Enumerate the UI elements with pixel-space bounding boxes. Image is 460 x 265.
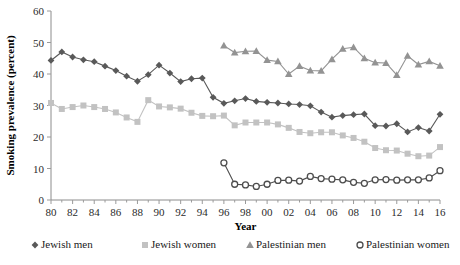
data-point	[188, 75, 195, 82]
data-point	[91, 58, 98, 65]
x-tick-label: 98	[240, 206, 252, 218]
x-tick-label: 86	[110, 206, 122, 218]
data-point	[113, 109, 119, 115]
data-point	[318, 176, 324, 182]
data-point	[123, 73, 130, 80]
data-point	[80, 103, 86, 109]
x-tick-label: 00	[262, 206, 274, 218]
y-tick-label: 20	[33, 131, 45, 143]
data-point	[243, 182, 249, 188]
data-point	[253, 98, 260, 105]
chart-canvas: 0102030405060808284868890929496980002040…	[0, 0, 460, 265]
x-tick-label: 80	[46, 206, 58, 218]
y-tick-label: 50	[33, 37, 45, 49]
data-point	[350, 111, 357, 118]
series-palestinian-men	[220, 42, 444, 78]
data-point	[102, 63, 109, 70]
data-point	[70, 104, 76, 110]
data-point	[361, 139, 367, 145]
data-point	[80, 56, 87, 63]
data-point	[220, 100, 227, 107]
series-jewish-women	[48, 97, 443, 159]
x-tick-label: 08	[348, 206, 360, 218]
data-point	[351, 179, 357, 185]
data-point	[275, 100, 282, 107]
data-point	[210, 113, 216, 119]
data-point	[253, 183, 259, 189]
x-tick-label: 84	[89, 206, 101, 218]
data-point	[436, 62, 444, 69]
y-tick-label: 40	[33, 68, 45, 80]
data-point	[221, 160, 227, 166]
data-point	[297, 178, 303, 184]
data-point	[231, 97, 238, 104]
data-point	[242, 95, 249, 102]
data-point	[178, 106, 184, 112]
legend-label: Jewish men	[41, 238, 93, 250]
data-point	[112, 67, 119, 74]
data-point	[437, 144, 443, 150]
legend-label: Palestinian men	[256, 238, 326, 250]
data-point	[275, 121, 281, 127]
data-point	[102, 106, 108, 112]
data-point	[285, 101, 292, 108]
data-point	[350, 43, 358, 50]
data-point	[220, 42, 228, 49]
data-point	[296, 62, 304, 69]
data-point	[221, 113, 227, 119]
data-point	[383, 147, 389, 153]
data-point	[253, 120, 259, 126]
x-tick-label: 06	[326, 206, 338, 218]
data-point	[59, 106, 65, 112]
data-point	[297, 129, 303, 135]
data-point	[372, 177, 378, 183]
data-point	[286, 177, 292, 183]
data-point	[156, 103, 162, 109]
data-point	[405, 177, 411, 183]
data-point	[91, 104, 97, 110]
data-point	[351, 135, 357, 141]
data-point	[339, 112, 346, 119]
legend-label: Palestinian women	[366, 238, 450, 250]
x-tick-label: 12	[391, 206, 402, 218]
x-tick-label: 82	[67, 206, 78, 218]
data-point	[296, 101, 303, 108]
data-point	[383, 123, 390, 130]
data-point	[415, 177, 421, 183]
data-point	[199, 113, 205, 119]
data-point	[340, 132, 346, 138]
data-point	[318, 129, 324, 135]
legend-item-palestinian-women[interactable]: Palestinian women	[357, 238, 450, 250]
y-tick-label: 30	[33, 100, 45, 112]
data-point	[188, 110, 194, 116]
y-tick-label: 0	[39, 194, 45, 206]
legend-marker-square	[142, 242, 148, 248]
data-point	[437, 168, 443, 174]
series-palestinian-women	[221, 160, 443, 190]
x-tick-label: 10	[370, 206, 382, 218]
x-tick-label: 04	[305, 206, 317, 218]
y-tick-label: 60	[33, 5, 45, 17]
y-axis-title: Smoking prevalence (percent)	[4, 35, 17, 175]
x-tick-label: 02	[283, 206, 294, 218]
data-point	[394, 177, 400, 183]
data-point	[48, 100, 54, 106]
legend-item-palestinian-men[interactable]: Palestinian men	[246, 238, 326, 250]
data-point	[405, 151, 411, 157]
data-point	[437, 111, 444, 118]
data-point	[232, 181, 238, 187]
data-point	[134, 119, 140, 125]
data-point	[307, 102, 314, 109]
legend-item-jewish-men[interactable]: Jewish men	[32, 238, 94, 250]
data-point	[307, 173, 313, 179]
data-point	[264, 120, 270, 126]
data-point	[199, 75, 206, 82]
data-point	[372, 145, 378, 151]
data-point	[275, 177, 281, 183]
legend-marker-circle	[357, 242, 363, 248]
x-axis-title: Year	[235, 220, 257, 232]
series-line	[51, 100, 440, 156]
legend-item-jewish-women[interactable]: Jewish women	[142, 238, 217, 250]
data-point	[340, 177, 346, 183]
data-point	[404, 52, 412, 59]
